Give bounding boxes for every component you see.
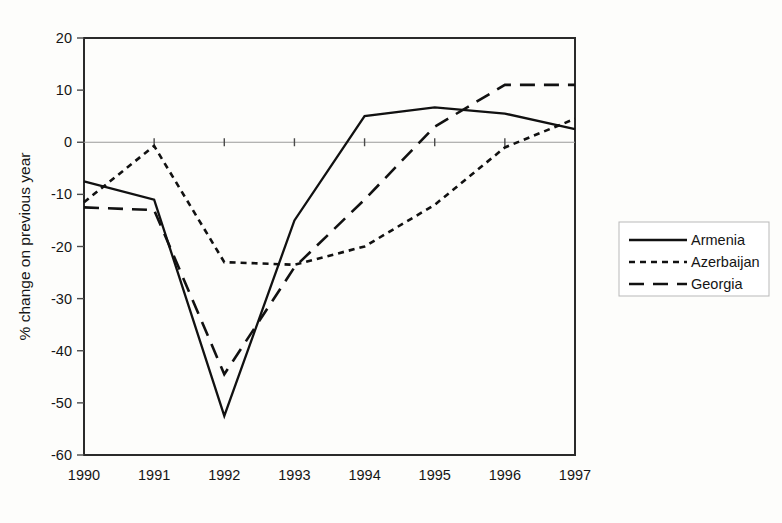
y-tick-label: 20 [56, 30, 72, 46]
x-tick-label: 1991 [138, 467, 170, 483]
x-tick-label: 1995 [419, 467, 451, 483]
y-tick-label: -40 [51, 343, 72, 359]
line-chart: 20100-10-20-30-40-50-60 1990199119921993… [0, 0, 782, 523]
y-tick-label: -10 [51, 186, 72, 202]
plot-frame [84, 38, 575, 455]
x-tick-label: 1997 [559, 467, 591, 483]
y-tick-label: 0 [64, 134, 72, 150]
legend-label-armenia: Armenia [691, 232, 746, 248]
series-line-georgia [84, 85, 575, 374]
x-tick-label: 1994 [348, 467, 380, 483]
y-tick-label: 10 [56, 82, 72, 98]
x-tick-label: 1993 [278, 467, 310, 483]
y-axis-title: % change on previous year [16, 153, 33, 341]
series-line-azerbaijan [84, 119, 575, 265]
x-tick-label: 1992 [208, 467, 240, 483]
x-tick-label: 1996 [489, 467, 521, 483]
chart-container: 20100-10-20-30-40-50-60 1990199119921993… [0, 0, 782, 523]
x-axis-ticks: 19901991199219931994199519961997 [68, 138, 591, 483]
chart-legend: ArmeniaAzerbaijanGeorgia [619, 222, 769, 296]
x-tick-label: 1990 [68, 467, 100, 483]
y-tick-label: -60 [51, 447, 72, 463]
y-axis-ticks: 20100-10-20-30-40-50-60 [51, 30, 84, 463]
series-line-armenia [84, 107, 575, 416]
legend-label-azerbaijan: Azerbaijan [691, 254, 760, 270]
data-series-group [84, 85, 575, 416]
y-tick-label: -30 [51, 291, 72, 307]
legend-label-georgia: Georgia [691, 276, 744, 292]
y-tick-label: -50 [51, 395, 72, 411]
y-tick-label: -20 [51, 239, 72, 255]
